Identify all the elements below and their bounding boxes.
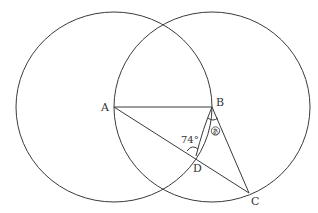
- angle-label-a-unknown: あ: [212, 128, 219, 136]
- angle-arc-d: [187, 147, 198, 151]
- label-b: B: [216, 96, 224, 109]
- segment-bd: [196, 107, 212, 156]
- segment-bc: [212, 107, 249, 193]
- segment-ac: [114, 107, 249, 193]
- label-a: A: [100, 101, 110, 114]
- label-c: C: [251, 195, 259, 208]
- label-d: D: [193, 162, 202, 175]
- geometry-diagram: A B C D 74° あ: [0, 0, 318, 213]
- angle-label-74: 74°: [181, 134, 199, 145]
